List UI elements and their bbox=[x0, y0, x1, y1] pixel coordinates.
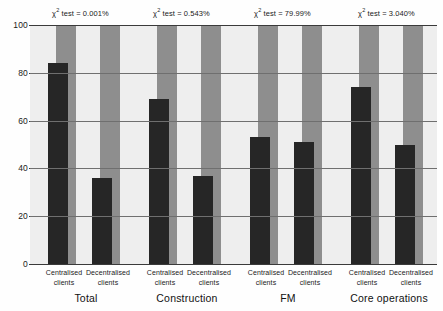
x-tick-label-line2: clients bbox=[283, 278, 337, 288]
annotation-chi-text-total: test = 0.001% bbox=[59, 9, 109, 18]
x-tick-label-line2: clients bbox=[81, 278, 135, 288]
gridline-60 bbox=[30, 121, 437, 122]
bar-value-total-centralised[interactable] bbox=[48, 63, 68, 264]
annotation-chi-text-fm: test = 79.99% bbox=[261, 9, 311, 18]
x-tick-label-core-decentralised: Decentralised clients bbox=[384, 268, 438, 287]
annotation-chi-core: χ2 test = 3.040% bbox=[336, 7, 437, 18]
x-tick-label-line1: Decentralised bbox=[182, 268, 236, 278]
bar-value-construction-centralised[interactable] bbox=[149, 99, 169, 264]
x-tick-label-line2: clients bbox=[384, 278, 438, 288]
bar-slot-core-decentralised bbox=[395, 25, 427, 264]
bar-value-construction-decentralised[interactable] bbox=[193, 176, 213, 264]
chart-root: 100 80 60 40 20 0 bbox=[0, 0, 443, 311]
annotation-chi-text-core: test = 3.040% bbox=[365, 9, 415, 18]
bar-slot-fm-centralised bbox=[250, 25, 282, 264]
bar-group-core-operations bbox=[333, 25, 437, 264]
x-tick-label-line1: Decentralised bbox=[384, 268, 438, 278]
axis-line-top bbox=[30, 25, 437, 26]
bar-slot-fm-decentralised bbox=[294, 25, 326, 264]
x-axis-labels: Centralised clients Decentralised client… bbox=[30, 268, 437, 311]
y-tick-label-20: 20 bbox=[2, 212, 28, 220]
y-tick-label-100: 100 bbox=[2, 21, 28, 29]
gridline-40 bbox=[30, 168, 437, 169]
y-axis: 100 80 60 40 20 0 bbox=[0, 0, 28, 311]
bar-slot-core-centralised bbox=[351, 25, 383, 264]
bar-value-fm-centralised[interactable] bbox=[250, 137, 270, 264]
x-tick-label-total-decentralised: Decentralised clients bbox=[81, 268, 135, 287]
bar-value-fm-decentralised[interactable] bbox=[294, 142, 314, 264]
y-tick-label-0: 0 bbox=[2, 260, 28, 268]
bar-groups bbox=[30, 25, 437, 264]
annotation-chi-total: χ2 test = 0.001% bbox=[30, 7, 131, 18]
annotation-chi-construction: χ2 test = 0.543% bbox=[131, 7, 232, 18]
gridline-20 bbox=[30, 216, 437, 217]
annotation-chi-text-construction: test = 0.543% bbox=[160, 9, 210, 18]
group-label-construction: Construction bbox=[138, 292, 236, 304]
annotation-chi-fm: χ2 test = 79.99% bbox=[232, 7, 333, 18]
axis-line-bottom bbox=[30, 264, 437, 265]
bar-slot-construction-centralised bbox=[149, 25, 181, 264]
x-tick-label-construction-decentralised: Decentralised clients bbox=[182, 268, 236, 287]
x-tick-label-line1: Decentralised bbox=[81, 268, 135, 278]
x-tick-label-fm-decentralised: Decentralised clients bbox=[283, 268, 337, 287]
bar-slot-total-centralised bbox=[48, 25, 80, 264]
x-tick-label-line1: Decentralised bbox=[283, 268, 337, 278]
bar-value-core-decentralised[interactable] bbox=[395, 145, 415, 265]
group-label-total: Total bbox=[37, 292, 135, 304]
x-tick-label-line2: clients bbox=[182, 278, 236, 288]
bar-value-core-centralised[interactable] bbox=[351, 87, 371, 264]
y-tick-label-80: 80 bbox=[2, 69, 28, 77]
bar-slot-construction-decentralised bbox=[193, 25, 225, 264]
gridline-80 bbox=[30, 73, 437, 74]
y-tick-label-60: 60 bbox=[2, 117, 28, 125]
group-label-core-operations: Core operations bbox=[340, 292, 438, 304]
bar-value-total-decentralised[interactable] bbox=[92, 178, 112, 264]
bar-group-construction bbox=[131, 25, 232, 264]
bar-group-fm bbox=[232, 25, 333, 264]
y-tick-label-40: 40 bbox=[2, 164, 28, 172]
bar-slot-total-decentralised bbox=[92, 25, 124, 264]
group-label-fm: FM bbox=[239, 292, 337, 304]
bar-group-total bbox=[30, 25, 131, 264]
